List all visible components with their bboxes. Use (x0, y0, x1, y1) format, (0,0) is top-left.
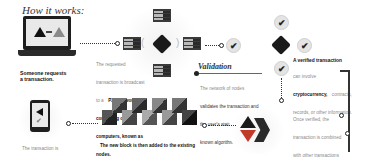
server-icon (153, 64, 171, 77)
blockchain-icon (100, 96, 200, 132)
connector (281, 78, 282, 98)
connector (80, 43, 115, 44)
bracket-line (340, 70, 349, 72)
check-icon: ✔ (274, 15, 289, 30)
added-text: The new block is then added to the exist… (100, 133, 200, 158)
server-icon (183, 37, 201, 50)
diagram-title: How it works: (22, 4, 84, 16)
signal-icon: ( (141, 37, 144, 48)
bracket-line (348, 70, 350, 152)
block-cube-icon (271, 35, 291, 55)
laptop-icon (18, 16, 76, 62)
server-icon (153, 9, 171, 22)
request-label: Someone requestsa transaction. (20, 70, 90, 82)
connector-node (66, 121, 71, 126)
server-icon (123, 37, 141, 50)
combined-text: Once verified, the transaction is combin… (293, 107, 345, 158)
validation-heading: Validation (198, 62, 232, 71)
connector-node (279, 98, 284, 103)
connector-node (202, 123, 207, 128)
check-icon: ✔ (297, 38, 312, 53)
connector-node (345, 131, 350, 136)
connector (208, 125, 236, 126)
connector-node (219, 43, 224, 48)
connector (205, 45, 219, 46)
complete-text: The transaction is complete. (22, 136, 64, 158)
check-icon: ✔ (274, 61, 289, 76)
validation-node (194, 71, 199, 76)
validation-divider (196, 73, 262, 74)
new-block-icon (240, 116, 266, 146)
check-icon: ✔ (226, 38, 241, 53)
connector (72, 123, 98, 124)
phone-icon: ✔ (30, 100, 50, 132)
signal-icon: ) (176, 37, 179, 48)
